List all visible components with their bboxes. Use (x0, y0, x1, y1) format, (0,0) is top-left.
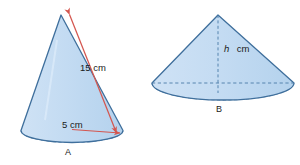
cone-a-group: 15 cm 5 cm A (21, 15, 123, 158)
cone-a-base-radius-text: 5 cm (62, 119, 83, 130)
cone-b-height-symbol: h (224, 43, 229, 54)
cone-b-group: h cm B (152, 15, 294, 114)
cone-b-label: B (216, 104, 222, 114)
cone-a-slant-height-text: 15 cm (80, 62, 106, 73)
figure-canvas: 15 cm 5 cm A h cm B (0, 0, 300, 165)
cones-figure: 15 cm 5 cm A h cm B (0, 0, 300, 165)
cone-a-label: A (65, 147, 71, 157)
cone-b-height-unit: cm (237, 43, 250, 54)
cone-b-body (152, 15, 294, 100)
